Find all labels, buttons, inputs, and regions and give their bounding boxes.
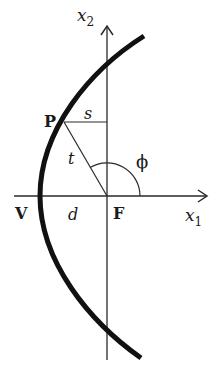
horizontal-axis-x1	[14, 190, 207, 202]
segment-label-s: s	[84, 104, 92, 123]
angle-label-phi: ϕ	[136, 151, 148, 172]
axis-label-x1: x1	[185, 205, 202, 229]
parabola-curve	[40, 36, 144, 358]
segment-label-d: d	[68, 205, 78, 224]
vertical-axis-x2	[101, 26, 113, 360]
point-label-f: F	[113, 204, 125, 223]
point-label-v: V	[14, 204, 28, 223]
parabola-diagram: x2 x1 P V F s t d ϕ	[0, 0, 219, 380]
axis-label-x2: x2	[77, 5, 94, 29]
point-label-p: P	[44, 112, 56, 131]
segment-label-t: t	[68, 149, 75, 168]
